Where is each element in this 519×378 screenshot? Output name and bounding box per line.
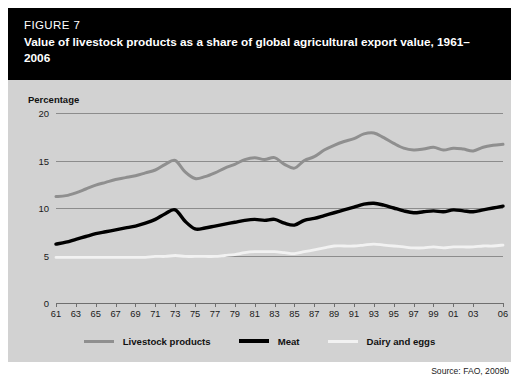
x-tick-label-85: 85 (289, 309, 299, 319)
x-tick-01 (453, 303, 454, 307)
x-tick-label-93: 93 (369, 309, 379, 319)
x-tick-label-06: 06 (498, 309, 508, 319)
x-tick-label-03: 03 (468, 309, 478, 319)
legend-item-livestock-products[interactable]: Livestock products (84, 336, 211, 347)
x-tick-75 (195, 303, 196, 307)
y-axis-title: Percentage (28, 94, 79, 105)
x-tick-label-73: 73 (170, 309, 180, 319)
x-tick-91 (354, 303, 355, 307)
x-tick-69 (135, 303, 136, 307)
y-tick-label-0: 0 (44, 298, 49, 309)
x-tick-63 (76, 303, 77, 307)
figure-container: FIGURE 7 Value of livestock products as … (0, 0, 519, 378)
x-tick-71 (155, 303, 156, 307)
legend-label: Dairy and eggs (367, 336, 436, 347)
y-tick-label-15: 15 (38, 155, 49, 166)
x-tick-97 (414, 303, 415, 307)
plot-area: 05101520 (56, 113, 503, 303)
series-line-meat (56, 203, 503, 244)
x-tick-06 (503, 303, 504, 307)
legend-item-meat[interactable]: Meat (239, 336, 300, 347)
x-tick-label-83: 83 (269, 309, 279, 319)
figure-number: FIGURE 7 (24, 18, 511, 33)
x-tick-label-01: 01 (448, 309, 458, 319)
x-tick-79 (235, 303, 236, 307)
x-tick-87 (314, 303, 315, 307)
x-tick-81 (255, 303, 256, 307)
x-tick-95 (394, 303, 395, 307)
y-tick-label-5: 5 (44, 250, 49, 261)
x-tick-89 (334, 303, 335, 307)
x-tick-label-87: 87 (309, 309, 319, 319)
series-line-livestock-products (56, 133, 503, 197)
x-tick-61 (56, 303, 57, 307)
x-tick-label-91: 91 (349, 309, 359, 319)
x-tick-label-79: 79 (230, 309, 240, 319)
y-tick-label-10: 10 (38, 203, 49, 214)
x-tick-label-89: 89 (329, 309, 339, 319)
legend-item-dairy-and-eggs[interactable]: Dairy and eggs (328, 336, 436, 347)
x-tick-93 (374, 303, 375, 307)
x-tick-99 (433, 303, 434, 307)
x-tick-67 (116, 303, 117, 307)
x-tick-label-99: 99 (428, 309, 438, 319)
x-tick-73 (175, 303, 176, 307)
legend-swatch-icon (328, 340, 358, 343)
x-tick-label-95: 95 (389, 309, 399, 319)
legend-label: Livestock products (123, 336, 211, 347)
x-tick-label-71: 71 (150, 309, 160, 319)
legend-label: Meat (278, 336, 300, 347)
legend-swatch-icon (84, 340, 114, 343)
x-tick-label-81: 81 (249, 309, 259, 319)
y-tick-label-20: 20 (38, 108, 49, 119)
x-tick-label-69: 69 (130, 309, 140, 319)
x-tick-label-77: 77 (210, 309, 220, 319)
x-tick-label-67: 67 (110, 309, 120, 319)
series-line-dairy-and-eggs (56, 244, 503, 257)
x-tick-label-75: 75 (190, 309, 200, 319)
x-tick-label-97: 97 (408, 309, 418, 319)
page-title: Value of livestock products as a share o… (24, 35, 494, 66)
chart-lines (56, 113, 503, 303)
x-tick-label-65: 65 (91, 309, 101, 319)
figure-title-band: FIGURE 7 Value of livestock products as … (8, 8, 511, 80)
chart-legend: Livestock productsMeatDairy and eggs (8, 328, 511, 354)
chart-panel: Percentage 05101520 61636567697173757779… (8, 80, 511, 362)
x-axis-line (56, 303, 503, 304)
source-note: Source: FAO, 2009b (431, 366, 509, 376)
x-tick-65 (96, 303, 97, 307)
x-tick-77 (215, 303, 216, 307)
x-tick-03 (473, 303, 474, 307)
legend-swatch-icon (239, 339, 269, 343)
x-tick-label-61: 61 (51, 309, 61, 319)
x-tick-label-63: 63 (71, 309, 81, 319)
x-tick-85 (294, 303, 295, 307)
x-tick-83 (275, 303, 276, 307)
